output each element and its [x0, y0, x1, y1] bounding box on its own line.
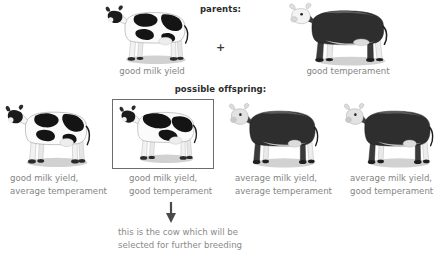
offspring-2-label-line1: good milk yield, — [129, 172, 197, 184]
offspring-2-label-line2: good temperament — [129, 185, 212, 197]
offspring-3-image — [228, 102, 328, 168]
offspring-4-label-line1: average milk yield, — [350, 172, 432, 184]
offspring-1-image — [4, 102, 102, 168]
offspring-4-image — [343, 102, 441, 168]
possible-offspring-heading: possible offspring: — [0, 84, 441, 94]
parent-cow-label: good milk yield — [102, 66, 202, 78]
parent-bull-label: good temperament — [290, 66, 406, 78]
offspring-3-label-line1: average milk yield, — [235, 172, 317, 184]
diagram-canvas: parents: possible offspring: + — [0, 0, 441, 258]
offspring-1-label-line1: good milk yield, — [10, 172, 78, 184]
offspring-2-image — [118, 103, 208, 164]
selection-caption-line2: selected for further breeding — [118, 239, 242, 252]
selection-caption-line1: this is the cow which will be — [118, 226, 238, 239]
offspring-1-label-line2: average temperament — [10, 185, 107, 197]
parent-bull-hereford-image — [288, 2, 398, 66]
offspring-4-label-line2: good temperament — [350, 185, 433, 197]
selection-arrow-icon — [162, 200, 180, 224]
offspring-3-label-line2: average temperament — [235, 185, 332, 197]
parent-cow-holstein-image — [104, 3, 200, 65]
